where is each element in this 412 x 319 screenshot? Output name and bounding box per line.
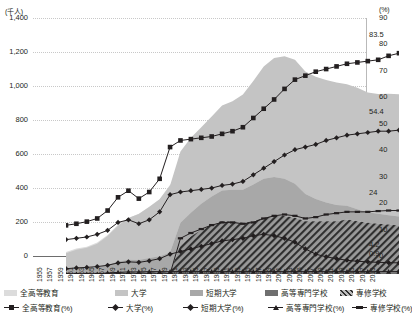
legend-item-area[interactable]: 短期大学 bbox=[190, 285, 237, 300]
line-series-marker bbox=[282, 87, 287, 92]
legend-label: 専修学校(%) bbox=[370, 302, 412, 313]
line-series-marker bbox=[85, 219, 90, 224]
line-series-marker bbox=[95, 232, 100, 237]
legend-item-line[interactable]: 高等専門学校(%) bbox=[268, 300, 344, 315]
x-axis-tick-label: 1969 bbox=[109, 256, 116, 282]
plot-area bbox=[33, 18, 366, 256]
legend-line-icon bbox=[108, 303, 123, 312]
gridline bbox=[33, 18, 366, 19]
x-axis-tick-label: 2005 bbox=[296, 256, 303, 282]
left-axis-tick-label: 0 bbox=[2, 251, 28, 260]
legend-label: 短期大学(%) bbox=[201, 302, 243, 313]
x-axis-tick-label: 1985 bbox=[192, 256, 199, 282]
line-series-marker bbox=[168, 145, 173, 150]
line-series-marker bbox=[209, 134, 214, 139]
legend-row-areas: 全高等教育大学短期大学高等専門学校専修学校 bbox=[0, 285, 411, 300]
legend-label: 高等専門学校 bbox=[281, 287, 328, 298]
left-axis-tick-label: 1,400 bbox=[2, 13, 28, 22]
line-series-marker bbox=[74, 236, 79, 241]
line-series-marker bbox=[397, 51, 399, 56]
right-axis-tick-label: 90 bbox=[379, 13, 409, 22]
line-series-marker bbox=[178, 138, 183, 143]
left-axis-tick-label: 400 bbox=[2, 183, 28, 192]
legend-item-area[interactable]: 専修学校 bbox=[340, 285, 387, 300]
left-axis-tick-label: 1,200 bbox=[2, 47, 28, 56]
x-axis-tick-label: 1993 bbox=[234, 256, 241, 282]
legend-label: 大学(%) bbox=[126, 302, 153, 313]
x-axis-tick-label: 1961 bbox=[67, 256, 74, 282]
right-axis-tick-label: 30 bbox=[379, 172, 409, 181]
line-series-marker bbox=[386, 54, 391, 59]
legend-swatch-icon bbox=[115, 290, 128, 296]
legend-item-area[interactable]: 全高等教育 bbox=[4, 285, 59, 300]
line-series-marker bbox=[334, 212, 339, 214]
x-axis-tick-label: 2017 bbox=[359, 256, 366, 282]
line-series-marker bbox=[219, 221, 224, 223]
series-value-callout: 4.2 bbox=[369, 240, 399, 249]
line-series-marker bbox=[293, 77, 298, 82]
right-axis-tick-label: 20 bbox=[379, 198, 409, 207]
right-axis-tick-label: 10 bbox=[379, 225, 409, 234]
line-series-marker bbox=[292, 215, 297, 217]
legend-label: 全高等教育 bbox=[20, 287, 59, 298]
x-axis-tick-label: 1975 bbox=[140, 256, 147, 282]
right-axis-tick-label: 70 bbox=[379, 66, 409, 75]
x-axis-tick-label: 1955 bbox=[36, 256, 43, 282]
legend-item-line[interactable]: 大学(%) bbox=[108, 300, 153, 315]
line-series-marker bbox=[66, 237, 69, 242]
line-series-marker bbox=[230, 129, 235, 134]
chart-canvas bbox=[66, 36, 399, 274]
legend-item-area[interactable]: 大学 bbox=[115, 285, 147, 300]
x-axis-tick-label: 2011 bbox=[327, 256, 334, 282]
x-axis-tick-label: 1979 bbox=[161, 256, 168, 282]
left-axis-tick-label: 200 bbox=[2, 217, 28, 226]
x-axis-tick-label: 2007 bbox=[307, 256, 314, 282]
line-series-marker bbox=[251, 116, 256, 121]
line-series-marker bbox=[178, 237, 183, 239]
line-series-marker bbox=[74, 221, 79, 226]
x-axis-tick-label: 2009 bbox=[317, 256, 324, 282]
line-series-marker bbox=[105, 208, 110, 213]
line-series-marker bbox=[199, 228, 204, 230]
line-series-marker bbox=[147, 190, 152, 195]
x-axis-tick-label: 2001 bbox=[275, 256, 282, 282]
line-series-marker bbox=[209, 224, 214, 226]
legend-item-line[interactable]: 専修学校(%) bbox=[352, 300, 412, 315]
line-series-marker bbox=[324, 213, 329, 215]
series-value-callout: 24 bbox=[369, 188, 399, 197]
legend-item-line[interactable]: 全高等教育(%) bbox=[4, 300, 72, 315]
x-axis-tick-label: 1987 bbox=[203, 256, 210, 282]
line-series-marker bbox=[303, 217, 308, 219]
legend-line-icon bbox=[4, 303, 19, 312]
line-series-marker bbox=[189, 137, 194, 142]
x-axis-tick-label: 1989 bbox=[213, 256, 220, 282]
chart-legend: 全高等教育大学短期大学高等専門学校専修学校 全高等教育(%)大学(%)短期大学(… bbox=[0, 285, 411, 319]
legend-line-icon bbox=[352, 303, 367, 312]
line-series-marker bbox=[272, 215, 277, 217]
line-series-marker bbox=[313, 216, 318, 218]
line-series-marker bbox=[272, 97, 277, 102]
legend-swatch-icon bbox=[4, 290, 17, 296]
x-axis-tick-label: 1995 bbox=[244, 256, 251, 282]
legend-line-icon bbox=[183, 303, 198, 312]
left-axis-tick-label: 800 bbox=[2, 115, 28, 124]
legend-item-line[interactable]: 短期大学(%) bbox=[183, 300, 243, 315]
legend-item-area[interactable]: 高等専門学校 bbox=[265, 285, 328, 300]
line-series-marker bbox=[230, 221, 235, 223]
legend-label: 専修学校 bbox=[356, 287, 387, 298]
right-axis-tick-label: 40 bbox=[379, 145, 409, 154]
line-series-marker bbox=[199, 136, 204, 141]
line-series-marker bbox=[261, 106, 266, 111]
legend-swatch-icon bbox=[265, 290, 278, 296]
line-series-marker bbox=[240, 223, 245, 225]
line-series-marker bbox=[355, 60, 360, 65]
right-axis-tick-label: 60 bbox=[379, 92, 409, 101]
x-axis-tick-label: 1971 bbox=[119, 256, 126, 282]
line-series-marker bbox=[126, 188, 131, 193]
x-axis-ticks: 1955195719591961196319651967196919711973… bbox=[33, 257, 366, 283]
legend-label: 短期大学 bbox=[206, 287, 237, 298]
line-series-marker bbox=[396, 209, 399, 211]
right-axis-tick-label: 80 bbox=[379, 39, 409, 48]
line-series-marker bbox=[365, 211, 370, 213]
